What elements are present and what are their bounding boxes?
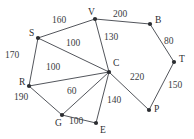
- edge-weight-r-c: 100: [46, 63, 60, 73]
- graph-canvas: [0, 0, 194, 139]
- node-label-v: V: [88, 8, 95, 18]
- graph-edge-s-r: [29, 38, 38, 86]
- graph-edge-s-v: [38, 19, 95, 38]
- edge-weight-s-v: 160: [52, 16, 66, 26]
- graph-edge-r-g: [29, 86, 62, 115]
- graph-node-c[interactable]: [107, 70, 111, 74]
- edge-weight-r-g: 190: [14, 93, 28, 103]
- edge-weight-v-c: 130: [104, 33, 118, 43]
- node-label-r: R: [19, 78, 25, 88]
- edge-weight-e-c: 140: [107, 96, 121, 106]
- graph-node-r[interactable]: [27, 84, 31, 88]
- graph-node-t[interactable]: [172, 60, 176, 64]
- edge-weight-c-p: 220: [130, 73, 144, 83]
- node-label-e: E: [100, 126, 106, 136]
- edge-weight-g-e: 100: [69, 117, 83, 127]
- node-label-g: G: [55, 119, 62, 129]
- graph-node-s[interactable]: [36, 36, 40, 40]
- graph-edge-v-b: [95, 19, 150, 24]
- graph-edge-v-c: [95, 19, 109, 72]
- edge-weight-s-c: 100: [66, 39, 80, 49]
- node-label-s: S: [29, 29, 34, 39]
- edge-weight-t-p: 150: [168, 81, 182, 91]
- graph-node-v[interactable]: [93, 17, 97, 21]
- graph-node-g[interactable]: [60, 113, 64, 117]
- edge-weight-s-r: 170: [5, 51, 19, 61]
- node-label-c: C: [113, 59, 119, 69]
- node-label-t: T: [179, 55, 185, 65]
- graph-diagram: SVBTCRPGE 160200801501301001701001906010…: [0, 0, 194, 139]
- graph-node-p[interactable]: [147, 108, 151, 112]
- graph-node-e[interactable]: [94, 121, 98, 125]
- edge-weight-v-b: 200: [113, 10, 127, 20]
- edge-weight-b-t: 80: [164, 37, 174, 47]
- node-label-b: B: [155, 16, 161, 26]
- node-label-p: P: [154, 105, 159, 115]
- graph-edge-r-c: [29, 72, 109, 86]
- graph-node-b[interactable]: [148, 22, 152, 26]
- edge-weight-g-c: 60: [67, 87, 77, 97]
